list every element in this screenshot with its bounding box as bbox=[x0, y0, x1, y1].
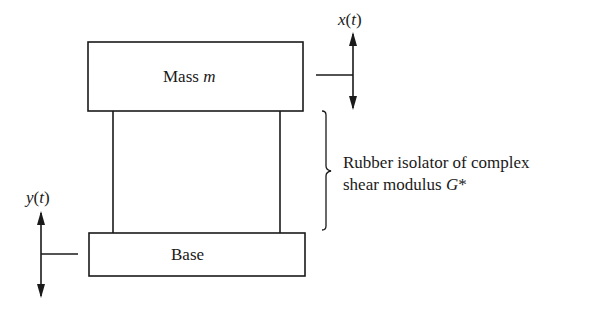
y-displacement-arrow-icon bbox=[37, 211, 78, 298]
y-signal-label: y(t) bbox=[26, 189, 50, 206]
base-label: Base bbox=[171, 246, 204, 263]
isolator-label-line2: shear modulus G* bbox=[343, 176, 467, 193]
x-signal-label: x(t) bbox=[338, 11, 362, 28]
curly-brace-icon bbox=[322, 111, 331, 230]
mass-label: Mass m bbox=[163, 68, 215, 85]
isolator-label-line1: Rubber isolator of complex bbox=[343, 154, 530, 171]
x-displacement-arrow-icon bbox=[316, 32, 357, 110]
